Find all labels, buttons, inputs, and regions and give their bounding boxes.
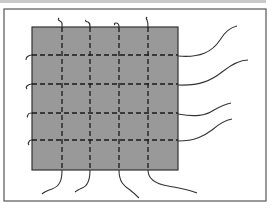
bottom-wire-lead	[148, 170, 197, 193]
top-wire-lead	[86, 20, 90, 27]
right-wire-lead	[178, 119, 232, 141]
top-wire-stubs	[58, 17, 148, 27]
right-wire-lead	[178, 26, 237, 56]
bottom-wire-leads	[42, 170, 197, 198]
left-wire-lead	[26, 84, 32, 89]
left-wire-lead	[27, 113, 32, 117]
top-wire-lead	[146, 17, 148, 27]
right-wire-leads	[178, 26, 248, 141]
top-wire-lead	[58, 18, 62, 27]
bottom-wire-lead	[42, 170, 62, 194]
left-wire-lead	[26, 55, 32, 60]
bottom-wire-lead	[119, 170, 139, 198]
grid-panel-diagram	[0, 0, 276, 208]
gray-panel	[32, 27, 178, 170]
left-wire-stubs	[26, 55, 32, 145]
bottom-wire-lead	[75, 170, 90, 192]
right-wire-lead	[178, 103, 231, 116]
right-wire-lead	[178, 60, 248, 85]
diagram-container	[0, 0, 276, 208]
